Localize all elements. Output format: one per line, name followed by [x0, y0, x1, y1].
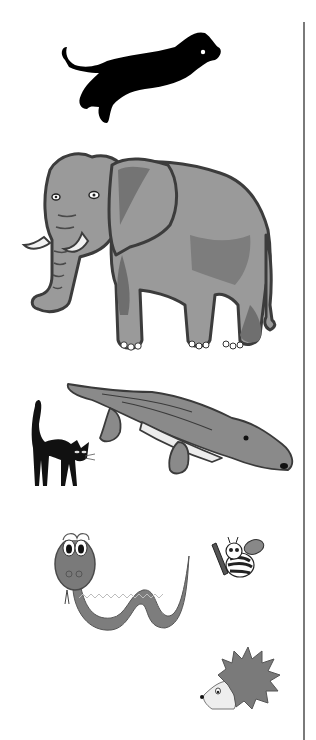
- snake-image: Snake: [45, 528, 195, 630]
- cat-icon: [25, 398, 97, 494]
- elephant-icon: [20, 145, 285, 355]
- panther-icon: [55, 25, 225, 130]
- elephant-image: Elephant: [20, 145, 285, 355]
- worksheet-page: Panther Elephant: [0, 0, 316, 740]
- hedgehog-icon: [198, 645, 282, 715]
- snake-icon: [45, 528, 195, 630]
- crocodile-image: Crocodile: [62, 378, 298, 482]
- vertical-divider-line: [303, 22, 305, 740]
- hedgehog-image: Hedgehog: [198, 645, 282, 715]
- black-cat-image: Black cat: [25, 398, 97, 494]
- bee-image: Bee: [208, 535, 270, 583]
- panther-image: Panther: [55, 25, 225, 130]
- crocodile-icon: [62, 378, 298, 482]
- bee-icon: [208, 535, 270, 583]
